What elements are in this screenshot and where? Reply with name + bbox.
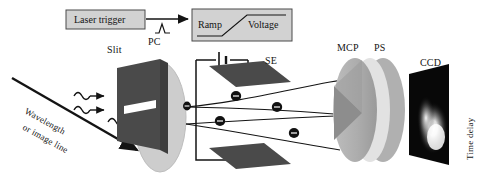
- voltage-label: Voltage: [248, 19, 278, 30]
- time-delay-label: Time delay: [465, 118, 475, 160]
- slit-label: Slit: [107, 44, 122, 55]
- ccd-panel: [409, 64, 449, 165]
- mcp-label: MCP: [337, 42, 359, 53]
- laser-trigger-label: Laser trigger: [74, 14, 125, 25]
- diagram-canvas: [0, 0, 487, 177]
- pc-label: PC: [148, 36, 161, 47]
- ccd-label: CCD: [420, 57, 441, 68]
- ps-label: PS: [374, 42, 386, 53]
- mcp-disc: [333, 58, 377, 162]
- electron-minus-icon: [231, 91, 241, 101]
- se-label: SE: [265, 55, 277, 66]
- streak-camera-diagram: Laser trigger Ramp Voltage Slit PC SE MC…: [0, 0, 487, 177]
- slit-plate: [117, 59, 168, 154]
- ramp-label: Ramp: [198, 19, 222, 30]
- pulse-waveform-icon: [155, 24, 170, 33]
- deflection-plate-bottom: [209, 143, 291, 169]
- electron-minus-icon: [215, 116, 225, 126]
- deflection-plate-top: [209, 61, 291, 87]
- electron-minus-icon: [272, 102, 282, 112]
- electron-minus-icon: [183, 102, 191, 111]
- electron-minus-icon: [289, 128, 299, 138]
- electron-markers: [183, 91, 299, 138]
